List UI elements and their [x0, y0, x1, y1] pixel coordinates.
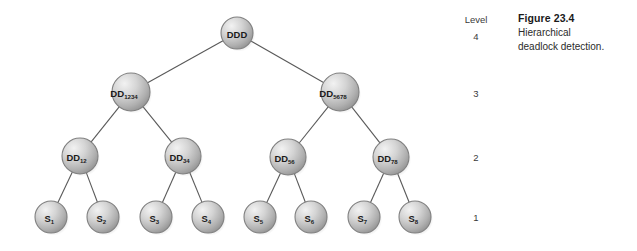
level-number-4: 4	[448, 31, 504, 42]
tree-node-s7[interactable]: S7	[348, 201, 382, 236]
tree-node-s5[interactable]: S5	[244, 201, 278, 236]
tree-edge	[266, 172, 280, 203]
hierarchy-tree-diagram: DDDDD1234DD5678DD12DD34DD56DD78S1S2S3S4S…	[0, 0, 460, 251]
tree-node-dd78[interactable]: DD78	[373, 139, 411, 178]
tree-node-ddd[interactable]: DDD	[221, 17, 255, 52]
figure-caption-title: Figure 23.4	[518, 11, 630, 26]
tree-node-s6[interactable]: S6	[295, 201, 329, 236]
node-circle	[192, 201, 224, 233]
tree-node-dd12[interactable]: DD12	[62, 138, 100, 177]
node-label: DDD	[227, 28, 248, 39]
node-circle	[244, 201, 276, 233]
tree-edge	[91, 106, 120, 143]
tree-edge	[299, 106, 329, 144]
tree-edge	[142, 106, 172, 143]
level-legend-heading: Level	[448, 14, 504, 25]
nodes-layer: DDDDD1234DD5678DD12DD34DD56DD78S1S2S3S4S…	[35, 17, 433, 236]
tree-edge	[57, 171, 72, 203]
tree-node-s3[interactable]: S3	[140, 201, 174, 236]
tree-node-s1[interactable]: S1	[35, 201, 69, 236]
tree-edge	[147, 40, 224, 83]
tree-edge	[86, 172, 98, 203]
tree-edge	[250, 40, 324, 83]
level-legend-column: Level 4321	[448, 0, 504, 251]
figure-caption-line-1: Hierarchical	[518, 26, 630, 41]
figure-caption-line-2: deadlock detection.	[518, 40, 630, 55]
tree-edge	[162, 172, 176, 204]
tree-node-s4[interactable]: S4	[192, 201, 226, 236]
figure-container: DDDDD1234DD5678DD12DD34DD56DD78S1S2S3S4S…	[0, 0, 637, 251]
tree-node-dd1234[interactable]: DD1234	[110, 73, 152, 114]
tree-edge	[189, 172, 202, 203]
node-circle	[399, 201, 431, 233]
tree-edge	[351, 106, 380, 143]
level-number-2: 2	[448, 152, 504, 163]
node-circle	[35, 201, 67, 233]
edges-layer	[57, 40, 409, 203]
tree-node-s8[interactable]: S8	[399, 201, 433, 236]
tree-edge	[370, 173, 384, 204]
tree-edge	[294, 173, 306, 203]
tree-node-s2[interactable]: S2	[87, 201, 121, 236]
node-circle	[348, 201, 380, 233]
node-circle	[87, 201, 119, 233]
node-circle	[295, 201, 327, 233]
level-number-3: 3	[448, 88, 504, 99]
tree-node-dd56[interactable]: DD56	[270, 139, 308, 178]
level-number-1: 1	[448, 212, 504, 223]
figure-caption: Figure 23.4 Hierarchical deadlock detect…	[518, 11, 630, 55]
node-circle	[140, 201, 172, 233]
tree-node-dd34[interactable]: DD34	[165, 138, 203, 177]
tree-node-dd5678[interactable]: DD5678	[319, 73, 361, 114]
tree-edge	[397, 173, 409, 203]
